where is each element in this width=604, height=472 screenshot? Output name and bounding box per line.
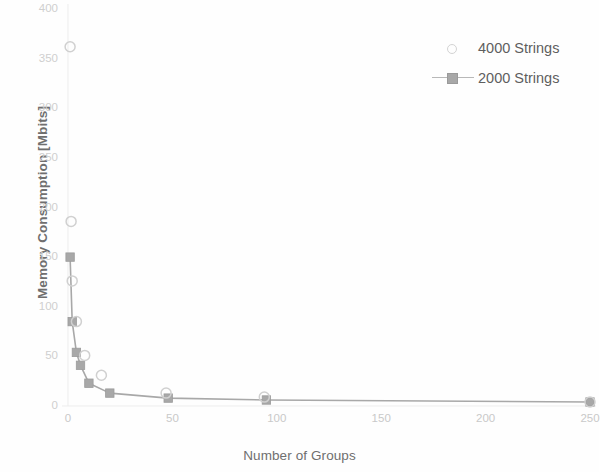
- legend-item-2000-strings: 2000 Strings: [432, 63, 592, 93]
- data-point-4000-strings: [96, 370, 106, 380]
- legend-label-2000-strings: 2000 Strings: [474, 70, 559, 86]
- series-2000-strings-markers: [66, 253, 594, 406]
- x-axis-title: Number of Groups: [0, 448, 599, 463]
- series-4000-strings-markers: [65, 42, 595, 407]
- data-point-4000-strings: [67, 276, 77, 286]
- chart-legend: 4000 Strings 2000 Strings: [432, 33, 592, 93]
- data-point-4000-strings: [80, 350, 90, 360]
- data-point-4000-strings: [65, 42, 75, 52]
- series-2000-strings-line: [70, 257, 590, 402]
- data-point-2000-strings: [66, 253, 74, 261]
- data-point-2000-strings: [106, 389, 114, 397]
- open-circle-marker-icon: [432, 39, 474, 57]
- data-point-2000-strings: [85, 379, 93, 387]
- legend-item-4000-strings: 4000 Strings: [432, 33, 592, 63]
- data-point-2000-strings: [76, 361, 84, 369]
- legend-label-4000-strings: 4000 Strings: [474, 40, 559, 56]
- data-point-2000-strings: [586, 398, 594, 406]
- line-square-marker-icon: [432, 69, 474, 87]
- series-line-2000-strings: [70, 257, 590, 402]
